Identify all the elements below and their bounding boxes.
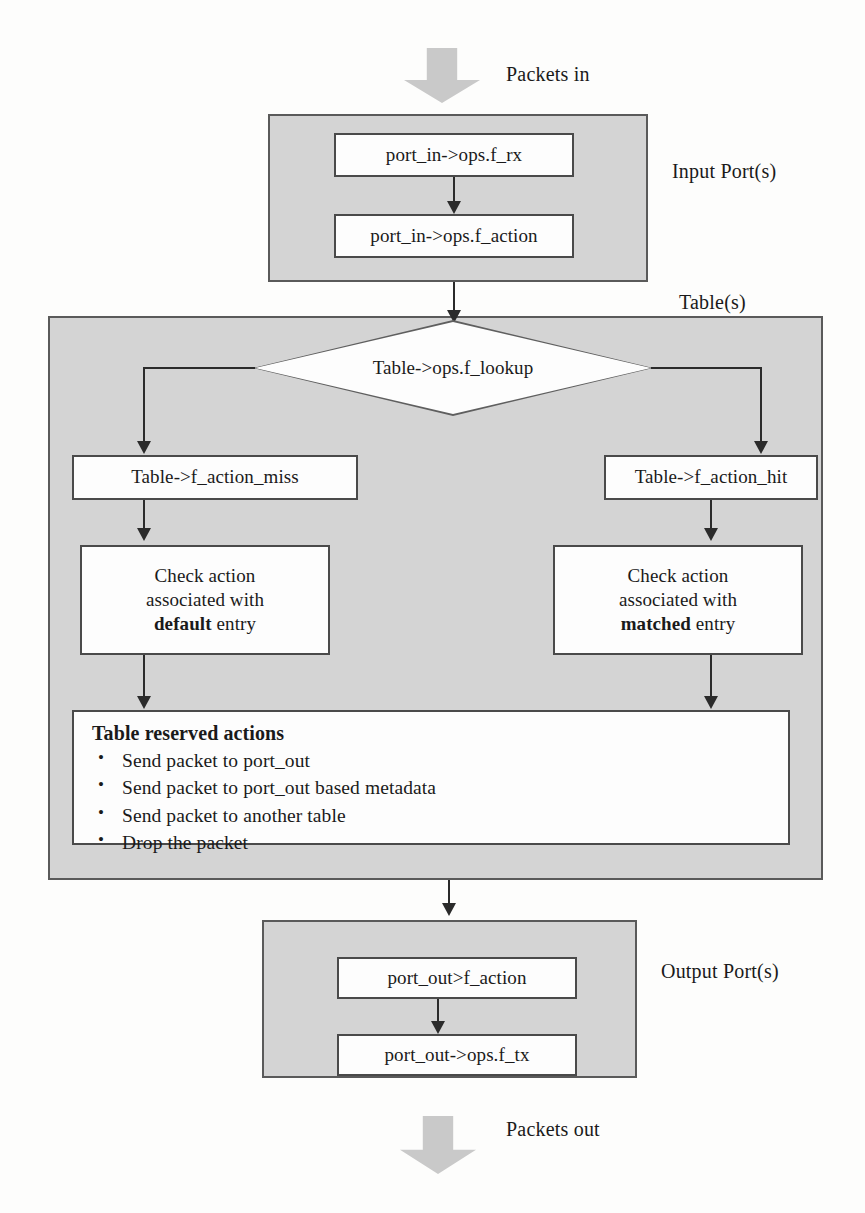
check-matched-line-3: matched entry [621, 612, 736, 636]
output-port-group-label: Output Port(s) [661, 960, 779, 983]
table-box-action-hit-label: Table->f_action_hit [635, 465, 788, 489]
table-box-action-miss-label: Table->f_action_miss [131, 465, 299, 489]
check-matched-emphasis: matched [621, 613, 691, 634]
arrowhead-into-output-port-icon [442, 903, 456, 916]
output-port-box-f-tx-label: port_out->ops.f_tx [385, 1043, 530, 1067]
connector-lookup-to-hit-vertical [760, 367, 762, 445]
input-port-box-f-action[interactable]: port_in->ops.f_action [334, 214, 574, 258]
input-port-box-f-action-label: port_in->ops.f_action [370, 224, 537, 248]
check-default-line-3: default entry [154, 612, 256, 636]
connector-lookup-to-hit-horizontal [651, 367, 762, 369]
connector-check-default-to-reserved [143, 655, 145, 696]
reserved-action-item: Drop the packet [92, 829, 788, 856]
check-default-suffix: entry [212, 613, 256, 634]
input-port-box-f-rx-label: port_in->ops.f_rx [386, 143, 522, 167]
table-group-label: Table(s) [679, 291, 746, 314]
output-port-box-f-action[interactable]: port_out>f_action [337, 957, 577, 999]
table-reserved-actions-box[interactable]: Table reserved actions Send packet to po… [72, 710, 790, 845]
packets-in-arrow-icon [404, 48, 480, 103]
arrowhead-output-action-to-tx-icon [431, 1021, 445, 1034]
input-port-box-f-rx[interactable]: port_in->ops.f_rx [334, 133, 574, 177]
arrowhead-reserved-from-matched-icon [704, 696, 718, 709]
arrowhead-into-check-default-icon [137, 528, 151, 541]
table-box-check-default[interactable]: Check action associated with default ent… [80, 545, 330, 655]
reserved-action-item: Send packet to port_out based metadata [92, 774, 788, 801]
diagram-canvas: Packets in port_in->ops.f_rx port_in->op… [0, 0, 865, 1213]
table-box-action-miss[interactable]: Table->f_action_miss [72, 455, 358, 500]
table-box-action-hit[interactable]: Table->f_action_hit [604, 455, 818, 500]
check-default-line-2: associated with [146, 588, 264, 612]
packets-out-arrow-icon [400, 1116, 476, 1174]
lookup-decision-label: Table->ops.f_lookup [373, 357, 534, 379]
table-box-check-matched[interactable]: Check action associated with matched ent… [553, 545, 803, 655]
input-port-group-label: Input Port(s) [672, 160, 776, 183]
arrowhead-into-action-miss-icon [137, 441, 151, 454]
check-matched-line-1: Check action [628, 564, 729, 588]
arrowhead-into-check-matched-icon [704, 528, 718, 541]
connector-hit-to-check-matched [710, 500, 712, 531]
arrowhead-into-action-hit-icon [754, 441, 768, 454]
reserved-action-item: Send packet to port_out [92, 747, 788, 774]
packets-in-label: Packets in [506, 63, 590, 86]
reserved-actions-list: Send packet to port_out Send packet to p… [92, 747, 788, 856]
check-default-emphasis: default [154, 613, 212, 634]
arrowhead-reserved-from-default-icon [137, 696, 151, 709]
connector-lookup-to-miss-vertical [143, 367, 145, 445]
output-port-box-f-action-label: port_out>f_action [387, 966, 526, 990]
reserved-actions-title: Table reserved actions [92, 722, 788, 745]
output-port-box-f-tx[interactable]: port_out->ops.f_tx [337, 1034, 577, 1076]
check-matched-line-2: associated with [619, 588, 737, 612]
connector-input-rx-to-action [453, 177, 455, 204]
check-default-line-1: Check action [155, 564, 256, 588]
connector-check-matched-to-reserved [710, 655, 712, 696]
check-matched-suffix: entry [691, 613, 735, 634]
connector-lookup-to-miss-horizontal [143, 367, 255, 369]
packets-out-label: Packets out [506, 1118, 600, 1141]
reserved-action-item: Send packet to another table [92, 802, 788, 829]
arrowhead-input-rx-to-action-icon [447, 201, 461, 214]
connector-miss-to-check-default [143, 500, 145, 531]
